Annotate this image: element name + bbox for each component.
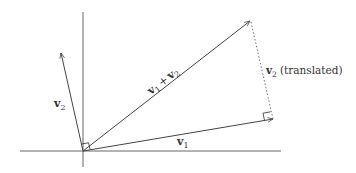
label-v1: v1 <box>176 135 189 150</box>
vector-addition-diagram: v2 v1 v1+v2 v2(translated) <box>0 0 356 173</box>
label-v2: v2 <box>53 97 66 112</box>
label-v1-plus-v2: v1+v2 <box>144 65 182 99</box>
label-v2-translated: v2(translated) <box>265 64 343 79</box>
